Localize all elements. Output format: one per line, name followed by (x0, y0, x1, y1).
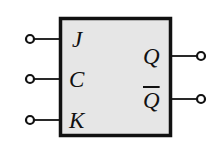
input-pin-c (26, 75, 59, 83)
input-pin-k (26, 116, 59, 124)
terminal-circle-icon (26, 35, 34, 43)
output-pin-q (172, 52, 205, 60)
label-j: J (72, 28, 82, 51)
terminal-circle-icon (197, 95, 205, 103)
jk-flip-flop-diagram: J C K Q Q (0, 0, 224, 152)
terminal-circle-icon (26, 75, 34, 83)
label-k: K (69, 109, 84, 132)
input-pin-j (26, 35, 59, 43)
terminal-circle-icon (26, 116, 34, 124)
diagram-svg (0, 0, 224, 152)
output-pin-q-bar (172, 95, 205, 103)
label-q-bar: Q (143, 89, 160, 112)
label-c: C (69, 68, 84, 91)
terminal-circle-icon (197, 52, 205, 60)
label-q: Q (143, 45, 160, 68)
